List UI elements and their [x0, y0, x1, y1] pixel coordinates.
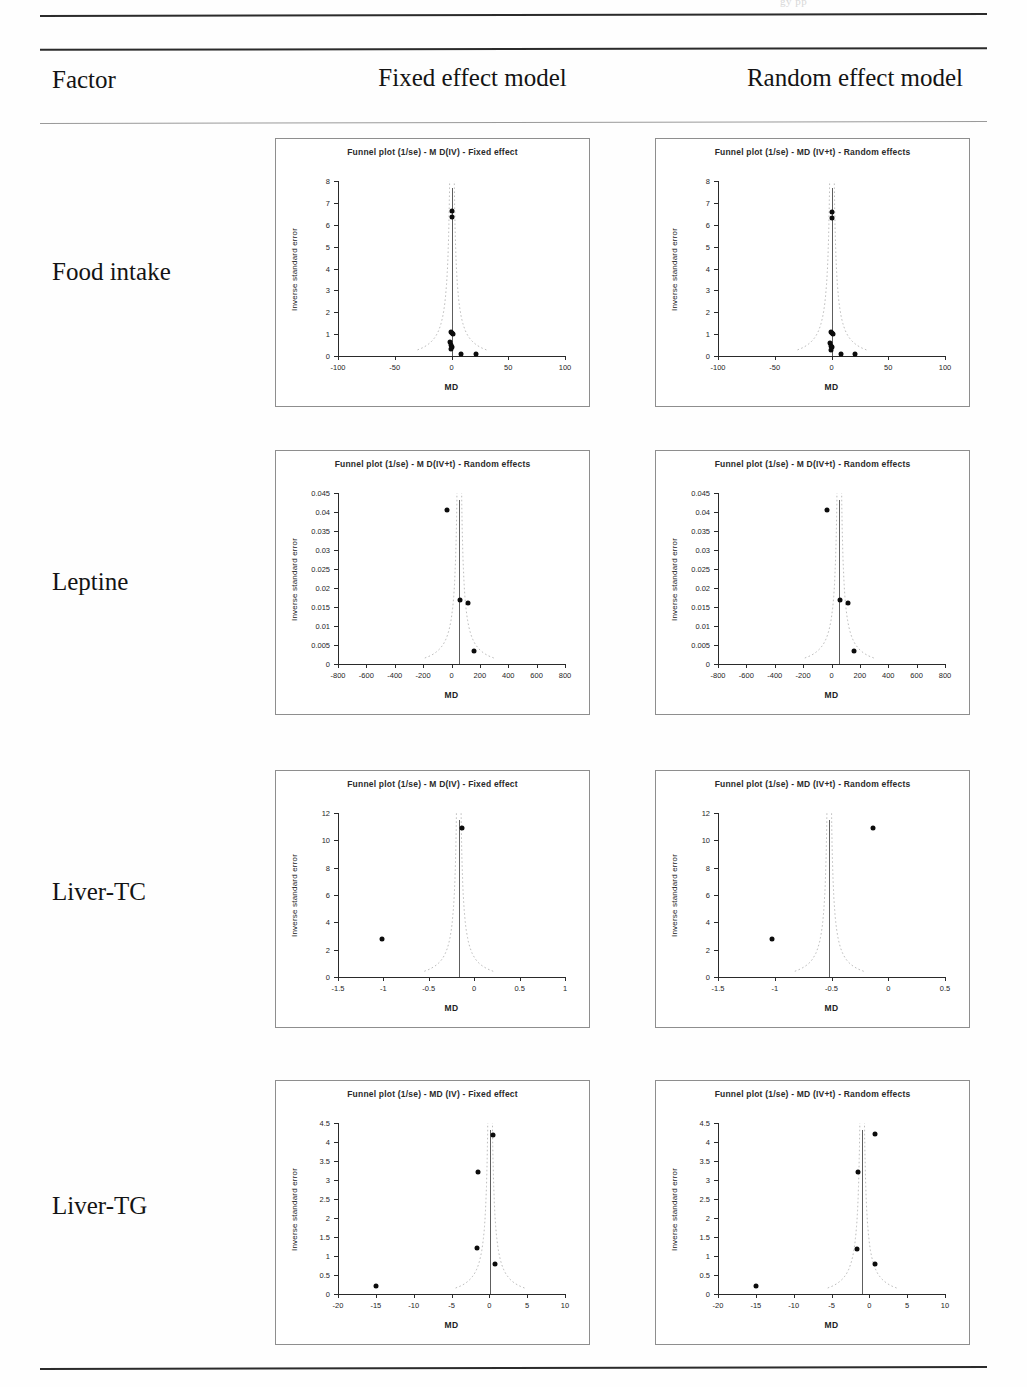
y-tick [714, 531, 718, 532]
x-tick [888, 664, 889, 668]
y-axis-title: Inverse standard error [670, 537, 679, 620]
y-tick [714, 1142, 718, 1143]
y-tick-label: 0.025 [658, 565, 710, 574]
y-tick-label: 0.5 [278, 1271, 330, 1280]
x-tick-label: 50 [884, 363, 892, 372]
pooled-effect-line [829, 820, 830, 977]
x-tick-label: 600 [910, 671, 923, 680]
data-point [475, 1169, 480, 1174]
x-axis-title: MD [718, 1003, 945, 1013]
x-tick [945, 664, 946, 668]
y-tick-label: 5 [278, 242, 330, 251]
x-tick-label: -1 [380, 984, 387, 993]
y-tick-label: 1 [278, 1252, 330, 1261]
y-tick [714, 550, 718, 551]
data-point [830, 332, 835, 337]
y-tick-label: 7 [658, 198, 710, 207]
y-tick [714, 1161, 718, 1162]
y-axis-title: Inverse standard error [290, 854, 299, 937]
plot-area: 012345678-100-50050100 [718, 181, 945, 356]
x-tick-label: 200 [474, 671, 487, 680]
plot-area: 012345678-100-50050100 [338, 181, 565, 356]
x-tick-label: 0 [829, 363, 833, 372]
x-tick [565, 977, 566, 981]
x-tick [537, 664, 538, 668]
x-tick-label: -100 [330, 363, 345, 372]
pooled-effect-line [459, 820, 460, 977]
x-tick-label: 0 [886, 984, 890, 993]
x-tick-label: -50 [769, 363, 780, 372]
data-point [449, 215, 454, 220]
y-tick [714, 334, 718, 335]
y-tick [714, 607, 718, 608]
funnel-confidence-curves [718, 1123, 945, 1294]
data-point [460, 826, 465, 831]
funnel-plot-liver-tc-fixed: Funnel plot (1/se) - M D(IV) - Fixed eff… [275, 770, 590, 1028]
column-header-random-effect-model: Random effect model [685, 64, 1025, 92]
chart-title: Funnel plot (1/se) - MD (IV+t) - Random … [656, 1089, 969, 1100]
pooled-effect-line [839, 500, 840, 664]
y-tick [334, 290, 338, 291]
y-axis-title: Inverse standard error [670, 227, 679, 310]
x-tick [508, 356, 509, 360]
row-label-liver-tc: Liver-TC [52, 878, 146, 906]
y-tick-label: 6 [658, 891, 710, 900]
x-tick-label: -50 [389, 363, 400, 372]
plot-area: 00.511.522.533.544.5-20-15-10-50510 [338, 1123, 565, 1294]
funnel-plot-food-intake-random: Funnel plot (1/se) - MD (IV+t) - Random … [655, 138, 970, 407]
rule-header-bottom [40, 121, 987, 124]
y-tick-label: 0 [658, 973, 710, 982]
y-tick [334, 531, 338, 532]
y-tick [714, 312, 718, 313]
x-tick [888, 356, 889, 360]
x-tick [869, 1294, 870, 1298]
plot-area: 024681012-1.5-1-0.500.5 [718, 813, 945, 977]
y-tick [714, 269, 718, 270]
x-tick [945, 1294, 946, 1298]
x-tick-label: 10 [561, 1301, 569, 1310]
x-tick [832, 1294, 833, 1298]
y-axis-line [338, 181, 339, 356]
y-tick-label: 3 [278, 1176, 330, 1185]
data-point [475, 1246, 480, 1251]
y-tick-label: 8 [278, 177, 330, 186]
data-point [493, 1261, 498, 1266]
y-tick-label: 0.03 [658, 546, 710, 555]
x-tick-label: 200 [854, 671, 867, 680]
y-tick [334, 922, 338, 923]
data-point [449, 208, 454, 213]
plot-area: 00.0050.010.0150.020.0250.030.0350.040.0… [338, 493, 565, 664]
x-tick-label: -600 [739, 671, 754, 680]
data-point [855, 1169, 860, 1174]
y-tick [334, 1142, 338, 1143]
y-axis-title: Inverse standard error [290, 537, 299, 620]
data-point [852, 649, 857, 654]
y-tick-label: 0.045 [658, 489, 710, 498]
y-tick-label: 1 [658, 1252, 710, 1261]
y-tick-label: 8 [278, 863, 330, 872]
x-tick [395, 356, 396, 360]
x-tick-label: 400 [502, 671, 515, 680]
y-tick [714, 1256, 718, 1257]
x-tick-label: 50 [504, 363, 512, 372]
y-tick-label: 0.04 [278, 508, 330, 517]
funnel-plot-leptine-fixed: Funnel plot (1/se) - M D(IV+t) - Random … [275, 450, 590, 715]
y-tick-label: 4 [658, 918, 710, 927]
y-tick-label: 4 [658, 264, 710, 273]
x-tick [803, 664, 804, 668]
data-point [465, 600, 470, 605]
y-tick-label: 2.5 [278, 1195, 330, 1204]
y-tick-label: 0 [278, 1290, 330, 1299]
y-tick-label: 4.5 [278, 1119, 330, 1128]
x-tick [423, 664, 424, 668]
x-tick-label: -5 [828, 1301, 835, 1310]
y-tick-label: 0 [658, 1290, 710, 1299]
y-tick-label: 10 [278, 836, 330, 845]
chart-title: Funnel plot (1/se) - M D(IV) - Fixed eff… [276, 147, 589, 158]
x-tick [366, 664, 367, 668]
x-tick-label: 0 [449, 363, 453, 372]
x-tick [775, 977, 776, 981]
y-tick-label: 4 [278, 918, 330, 927]
x-axis-title: MD [718, 690, 945, 700]
y-tick [334, 1256, 338, 1257]
